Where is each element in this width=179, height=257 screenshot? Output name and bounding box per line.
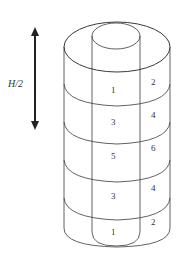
zone-label-outer-1: 2 (151, 77, 156, 87)
height-label: H/2 (7, 78, 23, 89)
zone-label-inner-4: 3 (111, 191, 116, 201)
height-arrow (31, 27, 39, 130)
band-boundary-2 (64, 122, 170, 144)
inner-cylinder-bottom (92, 232, 140, 246)
zone-label-inner-1: 1 (111, 85, 116, 95)
band-boundary-1 (64, 84, 170, 106)
zone-label-outer-2: 4 (151, 110, 156, 120)
zone-label-outer-4: 4 (151, 183, 156, 193)
inner-cylinder-top (92, 23, 140, 49)
arrow-down-icon (31, 121, 39, 130)
band-boundary-3 (64, 160, 170, 182)
zone-label-inner-3: 5 (111, 151, 116, 161)
zone-label-outer-5: 2 (151, 217, 156, 227)
zone-label-outer-3: 6 (151, 143, 156, 153)
outer-cylinder-bottom (64, 228, 170, 247)
cylinder-diagram: H/2 1 3 5 3 1 2 4 6 4 2 (0, 0, 179, 257)
outer-cylinder-top (64, 22, 170, 72)
zone-label-inner-2: 3 (111, 117, 116, 127)
arrow-up-icon (31, 27, 39, 36)
zone-label-inner-5: 1 (111, 227, 116, 237)
